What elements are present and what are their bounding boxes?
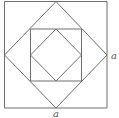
- side-label-bottom: a: [53, 108, 59, 118]
- outer-square: [5, 2, 108, 109]
- outer-diamond: [5, 2, 108, 109]
- nested-squares-diagram: a a: [0, 0, 119, 118]
- inner-diamond: [31, 29, 82, 81]
- side-label-right: a: [111, 50, 117, 61]
- inner-square: [31, 29, 82, 81]
